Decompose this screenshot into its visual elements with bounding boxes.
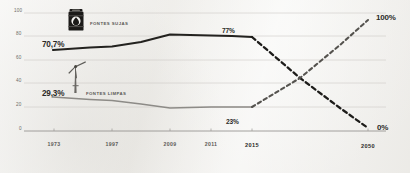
y-tick-60: 60 — [16, 55, 22, 60]
projection-series-fontes-limpas — [252, 20, 368, 107]
y-tick-40: 40 — [16, 78, 22, 83]
energy-sources-line-chart: 100 80 60 40 20 0 1973 1997 2009 2011 20… — [0, 0, 410, 173]
wind-turbine-icon — [68, 61, 86, 93]
projection-series-fontes-sujas — [252, 37, 368, 128]
x-label-2015: 2015 — [245, 142, 259, 148]
y-axis-labels: 100 80 60 40 20 0 — [14, 8, 23, 131]
x-label-1973: 1973 — [48, 141, 61, 147]
chart-svg: 100 80 60 40 20 0 1973 1997 2009 2011 20… — [0, 0, 410, 173]
y-tick-20: 20 — [16, 102, 22, 107]
line-series-fontes-limpas — [53, 97, 252, 108]
x-label-2009: 2009 — [164, 141, 177, 147]
value-label-dirty-2015: 77% — [222, 27, 235, 34]
value-label-clean-end: 100% — [376, 13, 396, 22]
legend-label-fontes-limpas: FONTES LIMPAS — [86, 91, 126, 96]
oil-barrel-icon — [69, 9, 84, 31]
y-tick-80: 80 — [16, 31, 22, 36]
y-tick-0: 0 — [19, 126, 22, 131]
value-label-clean-start: 29,3% — [42, 89, 65, 98]
value-label-dirty-start: 70,7% — [42, 40, 65, 49]
value-label-clean-2015: 23% — [226, 118, 239, 125]
x-label-2050: 2050 — [361, 143, 375, 149]
line-series-fontes-sujas — [53, 35, 252, 51]
x-label-1997: 1997 — [106, 141, 119, 147]
x-axis-labels: 1973 1997 2009 2011 2015 2050 — [48, 141, 375, 149]
value-label-dirty-end: 0% — [377, 123, 388, 132]
legend-label-fontes-sujas: FONTES SUJAS — [90, 21, 128, 26]
x-label-2011: 2011 — [205, 141, 218, 147]
y-tick-100: 100 — [14, 8, 23, 13]
